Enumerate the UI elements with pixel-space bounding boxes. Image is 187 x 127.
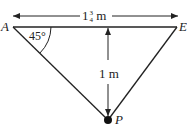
point-label-P: P bbox=[115, 113, 123, 126]
width-unit: m bbox=[96, 8, 106, 23]
angle-label: 45° bbox=[29, 30, 46, 42]
height-label: 1 m bbox=[99, 66, 119, 81]
width-fraction: 34 bbox=[90, 10, 94, 24]
mass-point-P bbox=[104, 116, 112, 124]
width-label: 134 m bbox=[82, 9, 106, 24]
edge-AP bbox=[13, 27, 108, 120]
fraction-denominator: 4 bbox=[90, 17, 94, 24]
width-whole: 1 bbox=[82, 8, 89, 23]
point-label-A: A bbox=[1, 20, 9, 33]
point-label-E: E bbox=[179, 20, 187, 33]
